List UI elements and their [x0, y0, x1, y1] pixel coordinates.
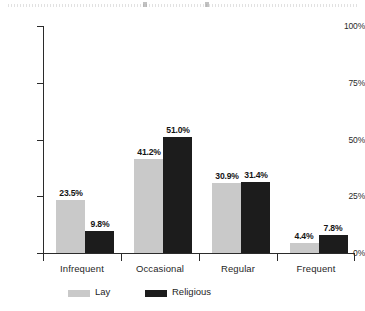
legend-swatch-lay: [68, 290, 90, 297]
x-axis-category-label: Frequent: [277, 263, 355, 274]
x-axis-tick: [277, 254, 278, 261]
chart-legend: Lay Religious: [0, 286, 365, 302]
x-axis-category-label: Infrequent: [43, 263, 121, 274]
bar-lay-occasional: [134, 159, 163, 253]
value-label-religious-frequent: 7.8%: [312, 223, 354, 233]
bar-chart: 100% 75% 50% 25% 0% 23.5% 9.8% 41.2% 51.…: [0, 0, 365, 311]
bar-lay-regular: [212, 183, 241, 253]
bar-lay-frequent: [290, 243, 319, 253]
value-label-lay-occasional: 41.2%: [126, 147, 172, 157]
value-label-religious-occasional: 51.0%: [155, 125, 201, 135]
x-axis-tick: [121, 254, 122, 261]
value-label-religious-infrequent: 9.8%: [77, 219, 123, 229]
value-label-religious-regular: 31.4%: [233, 170, 279, 180]
x-axis-category-label: Regular: [199, 263, 277, 274]
value-label-lay-infrequent: 23.5%: [48, 188, 94, 198]
bar-religious-regular: [241, 182, 270, 253]
legend-label-religious: Religious: [172, 286, 211, 297]
legend-label-lay: Lay: [95, 286, 110, 297]
legend-swatch-religious: [145, 290, 167, 297]
x-axis-tick: [354, 254, 355, 261]
x-axis-tick: [43, 254, 44, 261]
x-axis-tick: [199, 254, 200, 261]
x-axis-category-label: Occasional: [121, 263, 199, 274]
bar-religious-infrequent: [85, 231, 114, 253]
